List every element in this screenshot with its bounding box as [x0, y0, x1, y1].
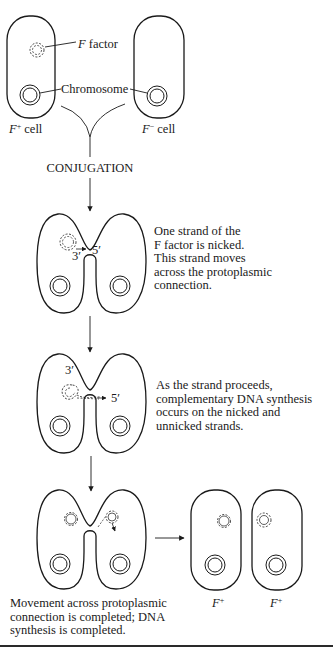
- f-factor-plasmid-icon: [30, 43, 44, 57]
- chromosome-icon: [266, 555, 286, 575]
- result-cell-2: [252, 490, 302, 590]
- f-factor-plasmid-icon: [60, 234, 76, 250]
- stage-synthesis-caption: As the strand proceeds, complementary DN…: [156, 378, 315, 433]
- f-plus-cell-label: F+ cell: [8, 122, 43, 136]
- f-factor-plasmid-icon: [65, 513, 78, 526]
- bottom-rule: [0, 645, 333, 647]
- chromosome-icon: [20, 85, 40, 105]
- f-factor-label: F factor: [77, 37, 119, 51]
- conjugation-label: CONJUGATION: [47, 161, 134, 175]
- chromosome-icon: [110, 276, 130, 296]
- three-prime-label: 3′: [72, 249, 81, 263]
- stage-nicking-cells: [37, 214, 146, 313]
- chromosome-label: Chromosome: [61, 82, 129, 96]
- f-factor-plasmid-icon: [218, 515, 231, 528]
- chromosome-icon: [110, 416, 130, 436]
- replicating-strand-icon: [62, 385, 106, 400]
- f-minus-cell-label: F− cell: [141, 122, 176, 136]
- chromosome-icon: [50, 276, 70, 296]
- stage-nicking-caption: One strand of the F factor is nicked. Th…: [154, 224, 275, 292]
- five-prime-label: 5′: [111, 391, 120, 405]
- stage-synthesis-cells: [37, 354, 146, 453]
- conjugation-diagram: F factor Chromosome F+ cell F− cell CONJ…: [0, 0, 333, 650]
- result-cell-2-label: F+: [269, 596, 283, 610]
- chromosome-icon: [110, 554, 130, 574]
- stage-completion-caption: Movement across protoplasmic connection …: [10, 596, 170, 637]
- f-plus-cell: [7, 16, 55, 118]
- result-cell-1: [191, 490, 241, 590]
- chromosome-icon: [50, 554, 70, 574]
- three-prime-label: 3′: [65, 363, 74, 377]
- chromosome-leader-line-left: [40, 89, 61, 93]
- stage-completion-cells: [37, 490, 146, 589]
- chromosome-icon: [205, 555, 225, 575]
- result-cell-1-label: F+: [211, 596, 225, 610]
- f-factor-plasmid-icon: [257, 513, 271, 527]
- five-prime-label: 5′: [92, 243, 101, 257]
- chromosome-icon: [147, 86, 167, 106]
- transferred-strand-icon: [98, 511, 118, 531]
- f-minus-cell: [134, 16, 184, 118]
- f-factor-leader-line: [45, 42, 76, 47]
- chromosome-icon: [50, 416, 70, 436]
- chromosome-leader-line-right: [130, 89, 147, 93]
- merge-connector: [61, 104, 125, 157]
